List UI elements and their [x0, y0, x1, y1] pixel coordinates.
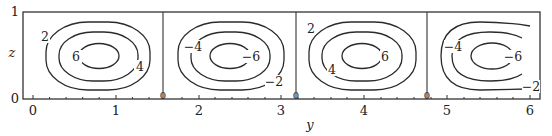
- z-tick-label: 1: [11, 4, 19, 19]
- x-tick-label: 3: [277, 103, 285, 118]
- x-axis-label: y: [305, 117, 314, 132]
- contour-label: −4: [184, 39, 202, 54]
- contour-label: 2: [307, 21, 315, 36]
- cell-4-contours: −4 −6 −2: [441, 22, 540, 94]
- contour-label: 2: [41, 29, 49, 44]
- contour-plot: 0 0 0 0 1 2 3: [0, 0, 552, 136]
- contour-label: −6: [504, 49, 522, 64]
- zero-contour-label: 0: [160, 90, 166, 101]
- contour-level-6: [342, 44, 382, 69]
- contour-label: 6: [72, 49, 80, 64]
- contour-label: −2: [265, 74, 283, 89]
- x-tick-label: 0: [29, 103, 37, 118]
- contour-label: 4: [328, 62, 336, 77]
- cell-2-contours: −4 −6 −2: [178, 22, 284, 90]
- z-axis-label: z: [8, 45, 16, 60]
- contour-label: 4: [136, 59, 144, 74]
- contour-label: −2: [522, 79, 540, 94]
- contour-label: −6: [242, 49, 260, 64]
- contour-label: 6: [381, 49, 389, 64]
- zero-contour-label: 0: [424, 90, 430, 101]
- x-tick-label: 4: [360, 103, 368, 118]
- zero-contour-label: 0: [293, 90, 299, 101]
- cell-1-contours: 2 4 6: [40, 22, 150, 90]
- contour-level-6: [79, 44, 119, 69]
- x-tick-label: 5: [443, 103, 451, 118]
- z-tick-label: 0: [11, 91, 19, 106]
- x-tick-label: 2: [195, 103, 203, 118]
- x-tick-label: 6: [526, 103, 534, 118]
- x-tick-label: 1: [112, 103, 120, 118]
- contour-label: −4: [444, 39, 462, 54]
- cell-3-contours: 2 4 6: [306, 21, 416, 90]
- contour-level-4: [59, 32, 138, 81]
